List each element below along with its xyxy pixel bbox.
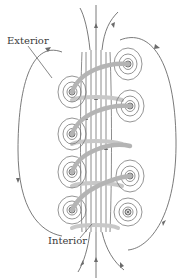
field-line xyxy=(80,8,90,50)
arrow-icon xyxy=(120,262,124,268)
field-line xyxy=(102,12,118,50)
solenoid-field-diagram: Exterior Interior xyxy=(0,0,188,280)
interior-label: Interior xyxy=(48,235,87,246)
arrow-icon xyxy=(16,178,20,183)
arrow-icon xyxy=(94,23,98,28)
exterior-label: Exterior xyxy=(7,35,49,46)
arrow-icon xyxy=(154,44,160,49)
arrow-icon xyxy=(94,257,98,262)
outer-field-line-left xyxy=(18,50,62,236)
arrow-icon xyxy=(162,220,166,226)
right-wire-cross-sections xyxy=(114,48,144,226)
arrow-icon xyxy=(111,22,115,28)
